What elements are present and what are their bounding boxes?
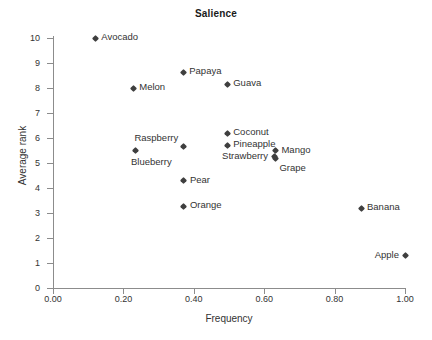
x-axis-line [53,288,405,289]
y-tick-label: 0 [0,283,40,293]
x-tick-label: 0.00 [44,294,62,304]
diamond-marker-icon [131,147,138,154]
diamond-marker-icon [224,81,231,88]
diamond-marker-icon [224,129,231,136]
diamond-marker-icon [401,252,408,259]
data-point-label: Melon [139,82,165,92]
data-point-label: Coconut [233,127,268,137]
diamond-marker-icon [180,177,187,184]
x-tick-label: 1.00 [396,294,414,304]
x-tick-label: 0.60 [255,294,273,304]
diamond-marker-icon [180,202,187,209]
data-point-label: Mango [281,145,310,155]
diamond-marker-icon [180,69,187,76]
data-point-label: Strawberry [222,151,268,161]
data-point-label: Papaya [189,66,221,76]
x-tick-label: 0.40 [185,294,203,304]
y-tick-label: 9 [0,58,40,68]
y-axis-title: Average rank [17,106,28,206]
plot-area: AvocadoPapayaGuavaMelonCoconutPineappleR… [53,30,405,288]
x-tick-label: 0.80 [326,294,344,304]
y-tick-label: 2 [0,233,40,243]
data-point-label: Blueberry [131,157,172,167]
x-axis-title: Frequency [53,313,405,324]
y-tick-label: 3 [0,208,40,218]
diamond-marker-icon [130,84,137,91]
data-point-label: Pineapple [233,139,275,149]
y-tick-label: 8 [0,83,40,93]
salience-scatter-chart: Salience 012345678910 0.000.200.400.600.… [0,0,432,340]
data-point-label: Apple [375,250,399,260]
data-point-label: Pear [190,175,210,185]
diamond-marker-icon [224,141,231,148]
data-point-label: Raspberry [134,133,178,143]
data-point-label: Orange [190,200,222,210]
diamond-marker-icon [180,143,187,150]
chart-title: Salience [0,8,432,19]
data-point-label: Banana [367,202,400,212]
x-tick-label: 0.20 [115,294,133,304]
data-point-label: Guava [233,78,261,88]
diamond-marker-icon [92,34,99,41]
data-point-label: Grape [279,163,305,173]
y-tick-label: 1 [0,258,40,268]
diamond-marker-icon [357,204,364,211]
y-tick-label: 10 [0,33,40,43]
data-point-label: Avocado [101,32,138,42]
